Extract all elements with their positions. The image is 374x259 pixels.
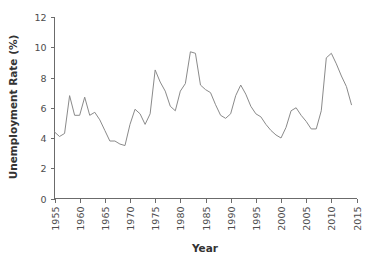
y-tick-label: 8 bbox=[40, 73, 46, 84]
x-tick-label: 1975 bbox=[150, 207, 161, 231]
x-tick-label: 2015 bbox=[352, 207, 363, 231]
x-tick-label: 1960 bbox=[75, 207, 86, 231]
y-tick-label: 6 bbox=[40, 103, 46, 114]
x-tick-label: 1955 bbox=[50, 207, 61, 231]
y-tick-label: 4 bbox=[40, 133, 46, 144]
y-tick-group: 024681012 bbox=[34, 12, 54, 205]
y-tick-label: 10 bbox=[34, 42, 46, 53]
y-tick-label: 0 bbox=[40, 194, 46, 205]
y-tick-label: 2 bbox=[40, 163, 46, 174]
y-tick-label: 12 bbox=[34, 12, 46, 23]
unemployment-series-line bbox=[55, 52, 352, 146]
x-tick-label: 1970 bbox=[125, 207, 136, 231]
x-tick-group: 1955196019651970197519801985199019952000… bbox=[50, 199, 363, 231]
x-tick-label: 1980 bbox=[175, 207, 186, 231]
chart-canvas: Unemployment Rate (%) Year 024681012 195… bbox=[0, 0, 374, 259]
x-tick-label: 2005 bbox=[301, 207, 312, 231]
x-tick-label: 1965 bbox=[100, 207, 111, 231]
x-axis-title: Year bbox=[191, 242, 219, 254]
x-tick-label: 1990 bbox=[226, 207, 237, 231]
x-tick-label: 1985 bbox=[201, 207, 212, 231]
x-tick-label: 2000 bbox=[276, 207, 287, 231]
x-tick-label: 1995 bbox=[251, 207, 262, 231]
unemployment-rate-line-chart: Unemployment Rate (%) Year 024681012 195… bbox=[0, 0, 374, 259]
x-tick-label: 2010 bbox=[326, 207, 337, 231]
y-axis-title: Unemployment Rate (%) bbox=[7, 35, 19, 180]
